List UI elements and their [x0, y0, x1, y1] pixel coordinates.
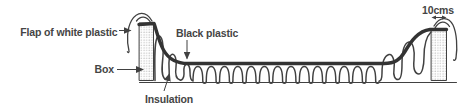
- insulation-squiggle: [155, 32, 431, 83]
- box-label: Box: [95, 63, 115, 75]
- left-flap-inner-curve: [137, 17, 152, 23]
- cross-section-diagram: Flap of white plastic Black plastic Box …: [0, 0, 471, 111]
- right-flap-inner-curve: [435, 22, 450, 28]
- diagram-canvas: Flap of white plastic Black plastic Box …: [0, 0, 471, 111]
- dimension-arrowhead-left: [432, 16, 437, 20]
- insulation-label: Insulation: [145, 93, 193, 105]
- dimension-label: 10cms: [422, 4, 454, 16]
- left-box: [140, 23, 154, 81]
- right-box: [432, 29, 447, 81]
- black-plastic-label: Black plastic: [176, 27, 239, 39]
- line-art-group: [127, 13, 456, 83]
- flap-label: Flap of white plastic: [20, 26, 118, 38]
